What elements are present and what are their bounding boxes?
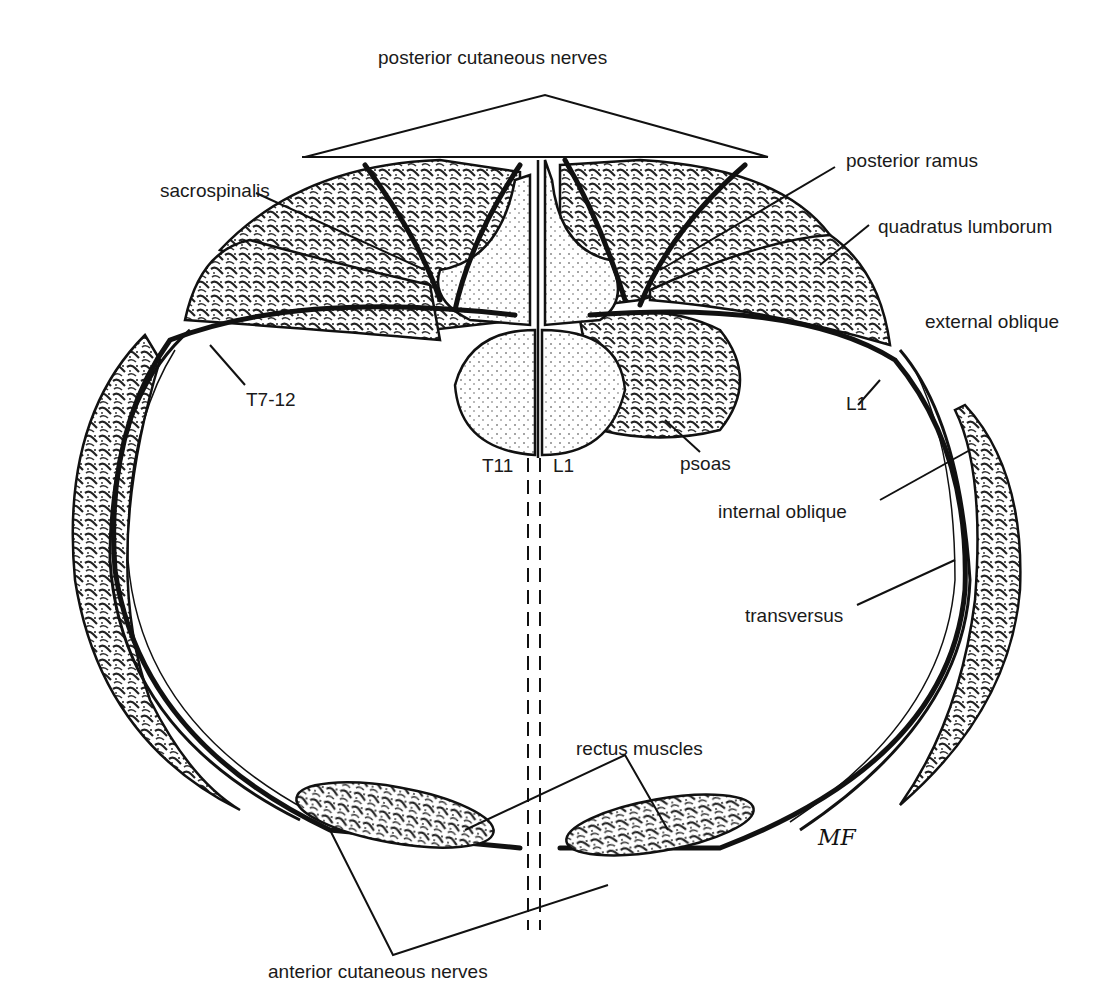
- label-rectus-muscles: rectus muscles: [576, 738, 703, 759]
- vertebra-t11-body: [455, 330, 535, 455]
- external-oblique-left: [73, 335, 240, 810]
- artist-signature: MF: [817, 825, 857, 850]
- label-quadratus-lumborum: quadratus lumborum: [878, 216, 1052, 237]
- label-internal-oblique: internal oblique: [718, 501, 847, 522]
- label-transversus: transversus: [745, 605, 843, 626]
- label-psoas: psoas: [680, 453, 731, 474]
- rectus-muscle-right: [562, 783, 758, 867]
- label-posterior-cutaneous-nerves: posterior cutaneous nerves: [378, 47, 607, 68]
- label-t11: T11: [482, 455, 513, 476]
- label-l1-center: L1: [553, 455, 574, 476]
- anatomy-diagram: posterior cutaneous nerves sacrospinalis…: [0, 0, 1111, 1006]
- label-l1-right: L1: [846, 393, 867, 414]
- label-t7-12: T7-12: [246, 389, 296, 410]
- label-sacrospinalis: sacrospinalis: [160, 180, 270, 201]
- rectus-muscle-left: [292, 770, 499, 860]
- label-posterior-ramus: posterior ramus: [846, 150, 978, 171]
- label-external-oblique: external oblique: [925, 311, 1059, 332]
- label-anterior-cutaneous-nerves: anterior cutaneous nerves: [268, 961, 488, 982]
- external-oblique-right: [900, 405, 1020, 805]
